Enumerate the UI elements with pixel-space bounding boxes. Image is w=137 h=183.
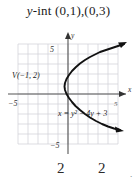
- axis-label-y: y: [70, 31, 75, 40]
- tick-label-x-positive: 5: [114, 100, 118, 108]
- tick-label-x-negative: −5: [8, 99, 17, 108]
- graph-canvas: 5 −5 −5 5 y x V(−1, 2) x = y² − 4y + 3: [0, 26, 137, 158]
- tick-label-y-negative: −5: [50, 141, 59, 150]
- axis-arrowheads: [65, 32, 126, 97]
- axis-label-x: x: [127, 85, 132, 94]
- figure-title: y-int (0,1),(0,3): [0, 3, 137, 19]
- curve-arrowheads: [115, 42, 127, 133]
- coordinate-plane-svg: 5 −5 −5 5 y x V(−1, 2) x = y² − 4y + 3: [0, 26, 137, 158]
- curve-lower-arrow-icon: [115, 127, 124, 133]
- equation-label: x = y² − 4y + 3: [57, 109, 107, 118]
- parabola-figure: y-int (0,1),(0,3): [0, 0, 137, 183]
- figure-title-text: -int (0,1),(0,3): [33, 3, 111, 18]
- bottom-mark-3: .: [130, 169, 132, 179]
- bottom-marks-row: 2 2 .: [0, 158, 137, 183]
- x-axis-arrow-icon: [119, 91, 126, 97]
- tick-label-y-positive: 5: [50, 45, 54, 54]
- bottom-mark-2: 2: [98, 160, 106, 177]
- bottom-mark-1: 2: [57, 160, 65, 177]
- vertex-label: V(−1, 2): [12, 71, 40, 80]
